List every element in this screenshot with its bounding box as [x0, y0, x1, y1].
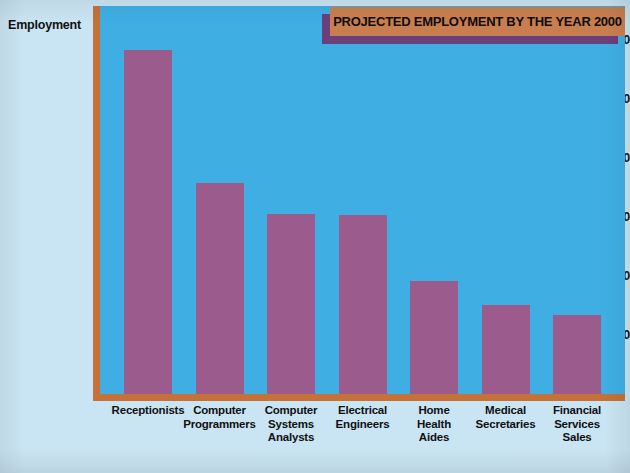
title-banner: PROJECTED EMPLOYMENT BY THE YEAR 2000	[330, 7, 625, 36]
bars-layer	[99, 6, 625, 395]
x-axis-label-line: Analysts	[246, 431, 336, 445]
x-axis-line	[93, 394, 625, 401]
x-axis-label-line: Services	[532, 418, 622, 432]
bar	[410, 281, 458, 395]
bar	[124, 50, 172, 395]
x-axis-label-line: Aides	[389, 431, 479, 445]
x-axis-label-line: Financial	[532, 404, 622, 418]
bar	[339, 215, 387, 395]
x-axis-label-line: Sales	[532, 431, 622, 445]
x-axis-category-label: FinancialServicesSales	[532, 404, 622, 445]
bar	[196, 183, 244, 395]
chart-title: PROJECTED EMPLOYMENT BY THE YEAR 2000	[333, 14, 622, 29]
y-axis-line	[93, 6, 100, 401]
chart-poster: Employment 200,000400,000600,000800,0001…	[0, 0, 630, 473]
bar	[267, 214, 315, 395]
bar	[482, 305, 530, 395]
y-axis-title: Employment	[8, 18, 81, 32]
bar	[553, 315, 601, 395]
